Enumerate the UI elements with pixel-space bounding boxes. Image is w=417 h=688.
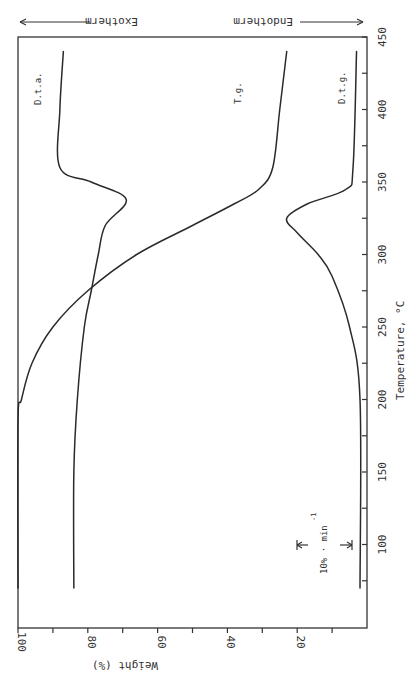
dtg-curve-label: D.t.g. [337, 71, 347, 104]
weight-axis-ticks: 10080604020 [15, 628, 332, 652]
weight-tick-label: 60 [155, 635, 168, 648]
temperature-axis-label: Temperature, °C [394, 301, 407, 400]
weight-tick-label: 100 [15, 632, 28, 652]
svg-text:10% · min: 10% · min [319, 525, 329, 574]
weight-tick-label: 20 [294, 635, 307, 648]
temperature-tick-label: 350 [376, 172, 389, 192]
dtg-curve [286, 52, 360, 589]
svg-text:-1: -1 [310, 513, 318, 521]
svg-text:Exotherm: Exotherm [85, 15, 138, 28]
temperature-tick-label: 250 [376, 317, 389, 337]
temperature-tick-label: 450 [376, 27, 389, 47]
endotherm-annotation: Endotherm [233, 15, 363, 28]
rate-scale-bar: 10% · min -1 [297, 513, 352, 574]
temperature-tick-label: 150 [376, 462, 389, 482]
temperature-tick-label: 400 [376, 100, 389, 120]
dta-curve-label: D.t.a. [33, 72, 43, 105]
weight-tick-label: 40 [224, 635, 237, 648]
plot-frame [18, 37, 367, 628]
curves [18, 52, 361, 589]
tg-curve-label: T.g. [233, 82, 243, 104]
thermal-analysis-chart: 100150200250300350400450 10080604020 Tem… [0, 0, 417, 688]
weight-tick-label: 80 [85, 635, 98, 648]
temperature-tick-label: 300 [376, 245, 389, 265]
temperature-tick-label: 200 [376, 390, 389, 410]
weight-axis-label: Weight (%) [92, 659, 158, 672]
svg-text:Endotherm: Endotherm [233, 15, 293, 28]
exotherm-annotation: Exotherm [20, 15, 138, 28]
temperature-tick-label: 100 [376, 535, 389, 555]
temperature-axis-ticks: 100150200250300350400450 [362, 27, 389, 581]
dta-curve [57, 52, 126, 589]
